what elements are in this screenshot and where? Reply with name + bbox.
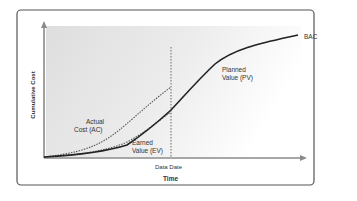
y-axis-label: Cumulative Cost [30,71,36,118]
pv-label-line2: Value (PV) [222,74,253,82]
bac-label: BAC [304,33,318,40]
ac-label-line1: Actual [86,118,105,125]
data-date-label: Data Date [155,164,183,170]
ev-label-line1: Earned [132,139,153,146]
plot-area-shading [46,26,302,157]
ac-label-line2: Cost (AC) [74,126,103,134]
x-axis-label: Time [163,175,178,182]
earned-value-diagram: BAC Planned Value (PV) Actual Cost (AC) … [0,0,357,201]
ev-label-line2: Value (EV) [132,147,163,155]
pv-label-line1: Planned [222,66,246,73]
